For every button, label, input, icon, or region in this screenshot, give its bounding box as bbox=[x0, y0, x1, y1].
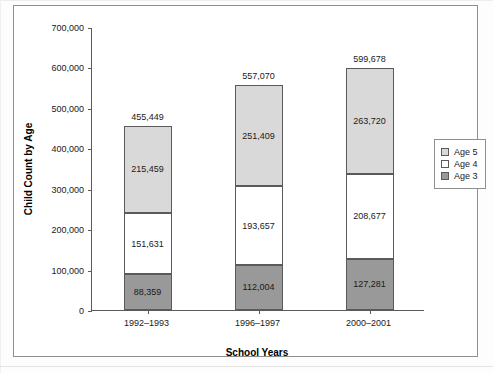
bar-total-label: 455,449 bbox=[103, 112, 193, 122]
y-axis-tick bbox=[88, 190, 92, 191]
bar-segment-value-label: 151,631 bbox=[131, 239, 164, 249]
legend-item[interactable]: Age 3 bbox=[441, 171, 478, 181]
legend-item-label: Age 3 bbox=[454, 171, 478, 181]
y-axis-tick bbox=[88, 271, 92, 272]
y-axis-tick bbox=[88, 109, 92, 110]
y-axis-tick-label: 0 bbox=[79, 307, 84, 316]
bar-segment-value-label: 215,459 bbox=[131, 164, 164, 174]
y-axis-tick bbox=[88, 28, 92, 29]
legend-swatch-icon bbox=[441, 172, 449, 180]
legend-item[interactable]: Age 4 bbox=[441, 159, 478, 169]
legend-item-label: Age 5 bbox=[454, 147, 478, 157]
stacked-bar[interactable]: 127,281208,677263,720599,678 bbox=[346, 68, 394, 310]
chart-legend: Age 5Age 4Age 3 bbox=[434, 139, 486, 189]
bar-segment[interactable]: 215,459 bbox=[124, 126, 172, 213]
y-axis-tick-label: 300,000 bbox=[51, 185, 84, 194]
bar-segment-value-label: 263,720 bbox=[353, 116, 386, 126]
y-axis-title: Child Count by Age bbox=[23, 123, 34, 215]
y-axis-tick bbox=[88, 149, 92, 150]
stacked-bar[interactable]: 112,004193,657251,409557,070 bbox=[235, 85, 283, 310]
y-axis-tick bbox=[88, 311, 92, 312]
bar-segment-value-label: 88,359 bbox=[134, 287, 162, 297]
y-axis-tick-label: 500,000 bbox=[51, 104, 84, 113]
x-axis-tick-label: 2000–2001 bbox=[346, 318, 391, 328]
y-axis-tick bbox=[88, 68, 92, 69]
stacked-bar[interactable]: 88,359151,631215,459455,449 bbox=[124, 126, 172, 310]
bar-segment[interactable]: 263,720 bbox=[346, 68, 394, 175]
legend-item-label: Age 4 bbox=[454, 159, 478, 169]
chart-frame: Child Count by Age School Years 0100,000… bbox=[13, 5, 478, 357]
bar-segment[interactable]: 251,409 bbox=[235, 85, 283, 187]
bar-segment-value-label: 193,657 bbox=[242, 221, 275, 231]
legend-swatch-icon bbox=[441, 148, 449, 156]
x-axis-tick-label: 1996–1997 bbox=[235, 318, 280, 328]
x-axis-title: School Years bbox=[226, 347, 289, 358]
x-axis-tick bbox=[148, 310, 149, 314]
bar-segment[interactable]: 88,359 bbox=[124, 274, 172, 310]
y-axis-tick-label: 100,000 bbox=[51, 266, 84, 275]
chart-page: Child Count by Age School Years 0100,000… bbox=[0, 0, 493, 373]
bar-total-label: 557,070 bbox=[214, 71, 304, 81]
x-axis-tick bbox=[370, 310, 371, 314]
x-axis-tick-label: 1992–1993 bbox=[124, 318, 169, 328]
y-axis-tick bbox=[88, 230, 92, 231]
bar-segment[interactable]: 151,631 bbox=[124, 213, 172, 274]
bar-segment-value-label: 127,281 bbox=[353, 279, 386, 289]
bar-segment-value-label: 112,004 bbox=[243, 282, 275, 292]
bar-segment[interactable]: 193,657 bbox=[235, 186, 283, 264]
bar-segment[interactable]: 127,281 bbox=[346, 259, 394, 310]
legend-item[interactable]: Age 5 bbox=[441, 147, 478, 157]
bar-segment[interactable]: 112,004 bbox=[235, 265, 283, 310]
plot-area: 0100,000200,000300,000400,000500,000600,… bbox=[91, 28, 424, 311]
page-edge-top bbox=[0, 0, 493, 1]
y-axis-tick-label: 600,000 bbox=[51, 64, 84, 73]
bar-segment[interactable]: 208,677 bbox=[346, 174, 394, 258]
bar-segment-value-label: 208,677 bbox=[353, 211, 386, 221]
y-axis-tick-label: 200,000 bbox=[51, 226, 84, 235]
legend-swatch-icon bbox=[441, 160, 449, 168]
x-axis-tick bbox=[259, 310, 260, 314]
page-edge-bottom bbox=[0, 366, 493, 367]
bar-segment-value-label: 251,409 bbox=[242, 131, 275, 141]
y-axis-tick-label: 700,000 bbox=[51, 24, 84, 33]
bar-total-label: 599,678 bbox=[325, 54, 415, 64]
page-edge-left bbox=[0, 0, 1, 373]
y-axis-tick-label: 400,000 bbox=[51, 145, 84, 154]
